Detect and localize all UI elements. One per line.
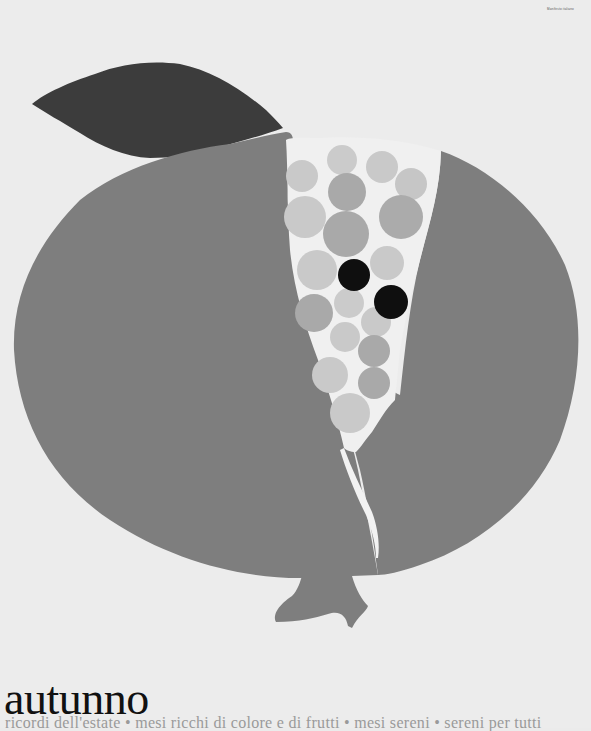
- poster-subtitle: ricordi dell'estate • mesi ricchi di col…: [5, 715, 542, 731]
- credit-text: Manifesto italiano: [547, 7, 574, 11]
- dark-seed: [338, 259, 370, 291]
- dark-seed: [374, 285, 408, 319]
- fruit-crown: [275, 576, 368, 628]
